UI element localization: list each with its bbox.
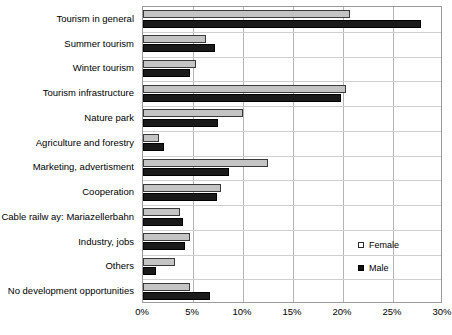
bar-male bbox=[143, 44, 215, 52]
x-axis-tick-label: 15% bbox=[282, 306, 301, 317]
x-axis-tick-label: 25% bbox=[382, 306, 401, 317]
bar-group bbox=[143, 205, 441, 230]
bar-female bbox=[143, 85, 346, 93]
bar-female bbox=[143, 258, 175, 266]
y-axis-category-labels: Tourism in generalSummer tourismWinter t… bbox=[0, 6, 138, 303]
bar-group bbox=[143, 156, 441, 181]
bar-group bbox=[143, 180, 441, 205]
bar-male bbox=[143, 292, 210, 300]
bar-group bbox=[143, 57, 441, 82]
bar-female bbox=[143, 233, 190, 241]
bar-group bbox=[143, 131, 441, 156]
y-axis-label: Tourism in general bbox=[56, 6, 134, 31]
y-axis-label: Tourism infrastructure bbox=[43, 80, 134, 105]
bar-female bbox=[143, 283, 190, 291]
bar-male bbox=[143, 168, 229, 176]
legend-item-male: Male bbox=[358, 263, 399, 273]
legend-label: Male bbox=[369, 263, 389, 273]
y-axis-label: Marketing, advertisment bbox=[33, 155, 134, 180]
x-axis-tick-labels: 0%5%10%15%20%25%30% bbox=[142, 306, 442, 322]
bar-female bbox=[143, 109, 243, 117]
y-axis-label: Summer tourism bbox=[64, 31, 134, 56]
y-axis-label: No development opportunities bbox=[8, 278, 134, 303]
x-axis-tick-label: 10% bbox=[232, 306, 251, 317]
legend-item-female: Female bbox=[358, 240, 399, 250]
y-axis-label: Industry, jobs bbox=[78, 229, 134, 254]
bar-male bbox=[143, 242, 185, 250]
bar-male bbox=[143, 119, 218, 127]
bar-female bbox=[143, 134, 159, 142]
bar-female bbox=[143, 159, 268, 167]
y-axis-label: Agriculture and forestry bbox=[36, 130, 134, 155]
x-axis-tick-label: 30% bbox=[432, 306, 451, 317]
x-axis-tick-label: 5% bbox=[185, 306, 199, 317]
y-axis-label: Nature park bbox=[84, 105, 134, 130]
legend-label: Female bbox=[369, 240, 399, 250]
bar-female bbox=[143, 35, 206, 43]
bar-group bbox=[143, 106, 441, 131]
x-axis-tick-label: 20% bbox=[332, 306, 351, 317]
bar-group bbox=[143, 32, 441, 57]
y-axis-label: Cable railw ay: Mariazellerbahn bbox=[1, 204, 134, 229]
bar-male bbox=[143, 69, 190, 77]
y-axis-label: Winter tourism bbox=[73, 56, 134, 81]
bar-male bbox=[143, 193, 217, 201]
open-square-swatch bbox=[358, 242, 364, 248]
bar-female bbox=[143, 184, 221, 192]
bar-male bbox=[143, 143, 164, 151]
bar-female bbox=[143, 60, 196, 68]
bar-female bbox=[143, 10, 350, 18]
filled-square-swatch bbox=[358, 265, 364, 271]
bar-group bbox=[143, 81, 441, 106]
y-axis-label: Others bbox=[105, 254, 134, 279]
bar-female bbox=[143, 208, 180, 216]
y-axis-label: Cooperation bbox=[82, 179, 134, 204]
chart-legend: FemaleMale bbox=[358, 240, 399, 286]
bar-male bbox=[143, 20, 421, 28]
bar-male bbox=[143, 218, 183, 226]
bar-male bbox=[143, 94, 341, 102]
bar-male bbox=[143, 267, 156, 275]
bar-group bbox=[143, 7, 441, 32]
x-axis-tick-label: 0% bbox=[135, 306, 149, 317]
